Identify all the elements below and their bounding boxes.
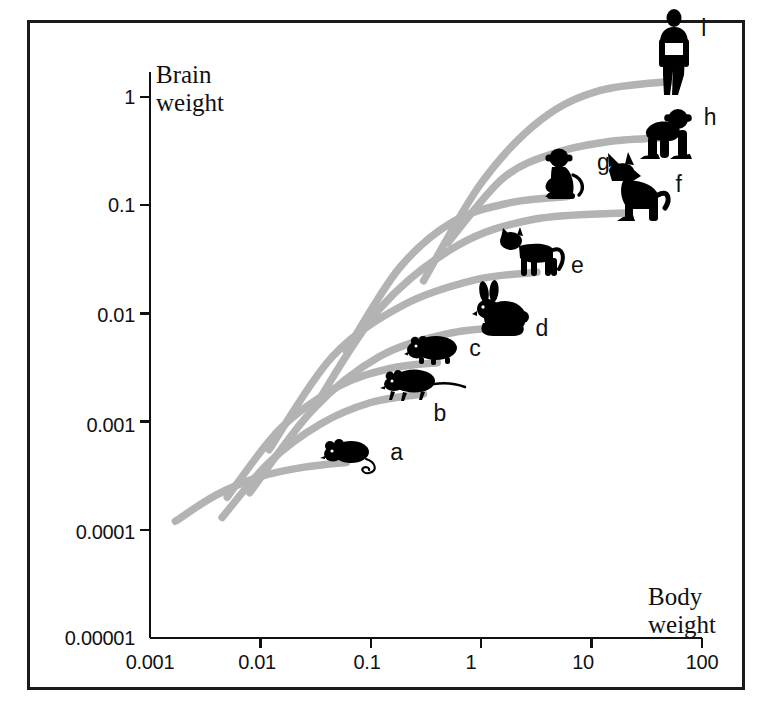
point-label-e: e (571, 252, 584, 279)
y-axis-title-line1: Brain (156, 61, 224, 89)
brain-body-weight-figure: 1 0.1 0.01 0.001 0.0001 0.00001 0.001 0.… (0, 0, 769, 715)
silhouette-mouse (320, 435, 382, 475)
y-axis-title-line2: weight (156, 89, 224, 117)
point-label-f: f (675, 171, 681, 198)
silhouette-chimpanzee (634, 106, 700, 160)
y-tick-0p01: 0.01 (44, 304, 135, 327)
silhouette-rabbit (469, 281, 529, 339)
x-tick-0p1: 0.1 (337, 651, 397, 674)
silhouette-cat (493, 224, 567, 279)
x-tick-10: 10 (561, 651, 605, 674)
x-axis-title: Body weight (648, 583, 716, 639)
silhouette-rat (381, 364, 467, 404)
growth-curves (175, 81, 673, 521)
point-label-h: h (704, 104, 717, 131)
x-axis-title-line1: Body (648, 583, 716, 611)
x-tick-1: 1 (456, 651, 486, 674)
point-label-b: b (433, 400, 446, 427)
x-tick-0p01: 0.01 (217, 651, 297, 674)
x-tick-100: 100 (670, 651, 734, 674)
y-tick-0p00001: 0.00001 (14, 627, 135, 650)
y-axis-title: Brain weight (156, 61, 224, 117)
point-label-d: d (535, 315, 548, 342)
y-tick-0p0001: 0.0001 (24, 521, 135, 544)
x-axis-title-line2: weight (648, 611, 716, 639)
silhouette-monkey (537, 147, 593, 203)
point-label-a: a (390, 439, 403, 466)
y-tick-0p1: 0.1 (60, 194, 135, 217)
y-tick-1: 1 (60, 86, 135, 109)
x-tick-0p001: 0.001 (110, 651, 190, 674)
silhouette-guinea-pig (405, 333, 463, 365)
point-label-g: g (597, 149, 610, 176)
point-label-i: i (701, 15, 706, 42)
y-tick-0p001: 0.001 (34, 414, 135, 437)
silhouette-human (651, 9, 697, 97)
